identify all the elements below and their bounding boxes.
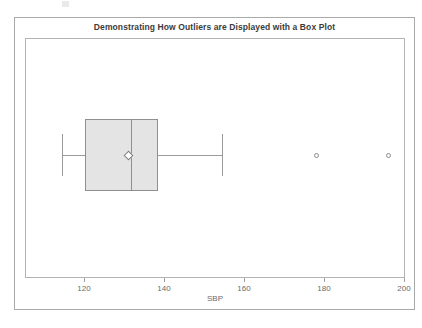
x-axis-tick: [164, 278, 165, 282]
whisker-high-cap: [222, 134, 223, 176]
whisker-low-cap: [62, 134, 63, 176]
outlier-point: [386, 153, 391, 158]
x-axis-tick: [324, 278, 325, 282]
x-axis-tick: [244, 278, 245, 282]
chart-screenshot: Demonstrating How Outliers are Displayed…: [0, 0, 422, 328]
x-axis-tick-label: 160: [229, 284, 259, 293]
scan-artifact: [62, 1, 69, 7]
x-axis-tick-label: 140: [149, 284, 179, 293]
whisker-high-line: [158, 155, 222, 156]
x-axis-title: SBP: [25, 294, 405, 303]
outlier-point: [314, 153, 319, 158]
whisker-low-line: [62, 155, 85, 156]
box-iqr: [85, 119, 158, 191]
x-axis-tick-label: 200: [389, 284, 419, 293]
plot-area: [25, 38, 405, 278]
x-axis-tick-label: 120: [69, 284, 99, 293]
chart-title: Demonstrating How Outliers are Displayed…: [14, 22, 415, 32]
x-axis-tick: [84, 278, 85, 282]
x-axis-tick-label: 180: [309, 284, 339, 293]
x-axis-tick: [404, 278, 405, 282]
